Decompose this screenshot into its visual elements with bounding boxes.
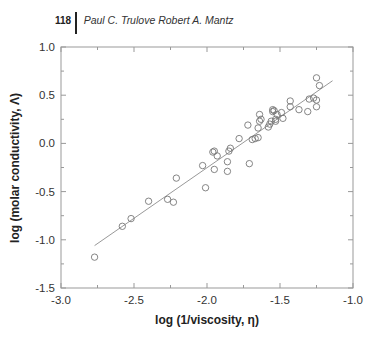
x-tick-label: -1.0 [343, 294, 363, 306]
y-tick-label: -0.5 [35, 186, 55, 198]
data-point [211, 166, 217, 172]
x-tick-label: -3.0 [51, 294, 71, 306]
y-tick-label: 0.0 [39, 137, 55, 149]
data-point [202, 185, 208, 191]
y-tick-label: -1.0 [35, 234, 55, 246]
x-tick-label: -1.5 [270, 294, 290, 306]
x-axis-title: log (1/viscosity, η) [155, 313, 259, 327]
data-point [145, 198, 151, 204]
scatter-chart: -3.0-2.5-2.0-1.5-1.0-1.5-1.0-0.50.00.51.… [0, 0, 376, 344]
data-point [296, 106, 302, 112]
data-point [313, 104, 319, 110]
data-point [316, 82, 322, 88]
data-point [305, 108, 311, 114]
y-axis-title: log (molar conductivity, Λ) [8, 93, 22, 243]
data-point [224, 159, 230, 165]
regression-line [95, 81, 333, 246]
data-point [236, 135, 242, 141]
data-point [91, 254, 97, 260]
fit-line [95, 81, 333, 246]
data-point [256, 118, 262, 124]
data-point [246, 160, 252, 166]
data-point [245, 122, 251, 128]
data-point [199, 162, 205, 168]
y-tick-label: 0.5 [39, 89, 55, 101]
x-tick-label: -2.0 [197, 294, 217, 306]
data-point [224, 168, 230, 174]
y-tick-label: 1.0 [39, 41, 55, 53]
data-point [255, 125, 261, 131]
y-tick-label: -1.5 [35, 282, 55, 294]
x-tick-label: -2.5 [124, 294, 144, 306]
data-point [214, 153, 220, 159]
data-point [313, 75, 319, 81]
data-point [164, 196, 170, 202]
data-point [173, 175, 179, 181]
data-point [170, 199, 176, 205]
